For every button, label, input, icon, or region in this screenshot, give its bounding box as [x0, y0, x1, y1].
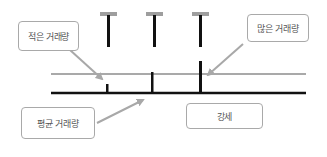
arrow-high-volume — [208, 44, 243, 75]
price-candles — [100, 12, 209, 47]
volume-bar-low — [106, 84, 109, 93]
label-bullish: 강세 — [186, 103, 263, 129]
label-low-volume: 적은 거래량 — [18, 21, 79, 51]
arrow-average-volume — [97, 100, 143, 123]
candle-stem-3 — [199, 15, 202, 47]
volume-bars — [106, 61, 202, 93]
volume-bar-high — [199, 61, 202, 93]
volume-bar-average — [151, 72, 154, 93]
candle-stem-1 — [107, 15, 110, 47]
candle-stem-2 — [153, 15, 156, 47]
label-average-volume: 평균 거래량 — [21, 107, 95, 139]
label-high-volume: 많은 거래량 — [247, 14, 309, 42]
